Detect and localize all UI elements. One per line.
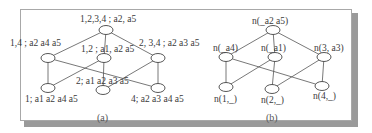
caption-a: (a) <box>97 112 108 124</box>
lattice-diagrams: 1,2,3,4 ; a2, a5 1,4 ; a2 a4 a5 1,2 ; a1… <box>0 0 372 133</box>
node-a-mid-center <box>97 54 111 63</box>
label-a-bot-center: 2; a1 a2 a3 a5 <box>76 76 129 86</box>
panel-b: n(_a2 a5) n(_a4) n(_a1) n(3, a3) n(1,_) … <box>213 16 344 124</box>
label-b-mid-right: n(3, a3) <box>314 43 344 54</box>
label-b-bot-left: n(1,_) <box>214 94 237 105</box>
node-a-bot-right <box>151 84 165 93</box>
node-b-mid-left <box>219 53 233 62</box>
panel-a: 1,2,3,4 ; a2, a5 1,4 ; a2 a4 a5 1,2 ; a1… <box>10 14 200 124</box>
label-a-mid-center: 1,2 ; a1, a2 a5 <box>81 44 135 54</box>
node-a-bot-center <box>96 86 110 95</box>
label-b-top: n(_a2 a5) <box>252 16 288 27</box>
label-b-bot-right: n(4,_) <box>313 91 336 102</box>
node-a-mid-left <box>41 54 55 63</box>
label-b-bot-center: n(2,_) <box>261 95 284 106</box>
caption-b: (b) <box>266 112 278 124</box>
label-a-bot-right: 4; a2 a3 a4 a5 <box>131 94 184 104</box>
node-b-bot-left <box>219 83 233 92</box>
node-b-mid-center <box>268 53 282 62</box>
label-a-mid-right: 2, 3,4 ; a2 a3 a5 <box>139 38 200 48</box>
label-a-top: 1,2,3,4 ; a2, a5 <box>80 14 136 24</box>
node-a-mid-right <box>151 54 165 63</box>
edge-b-midcenter-botleft <box>226 57 275 87</box>
label-a-bot-left: 1; a1 a2 a4 a5 <box>25 94 78 104</box>
node-b-bot-center <box>265 85 279 94</box>
label-a-mid-left: 1,4 ; a2 a4 a5 <box>10 38 61 48</box>
node-b-bot-right <box>315 82 329 91</box>
node-b-top <box>266 26 280 35</box>
label-b-mid-left: n(_a4) <box>213 43 238 54</box>
node-a-top <box>99 26 113 35</box>
label-b-mid-center: n(_a1) <box>261 43 286 54</box>
node-a-bot-left <box>41 84 55 93</box>
node-b-mid-right <box>317 53 331 62</box>
